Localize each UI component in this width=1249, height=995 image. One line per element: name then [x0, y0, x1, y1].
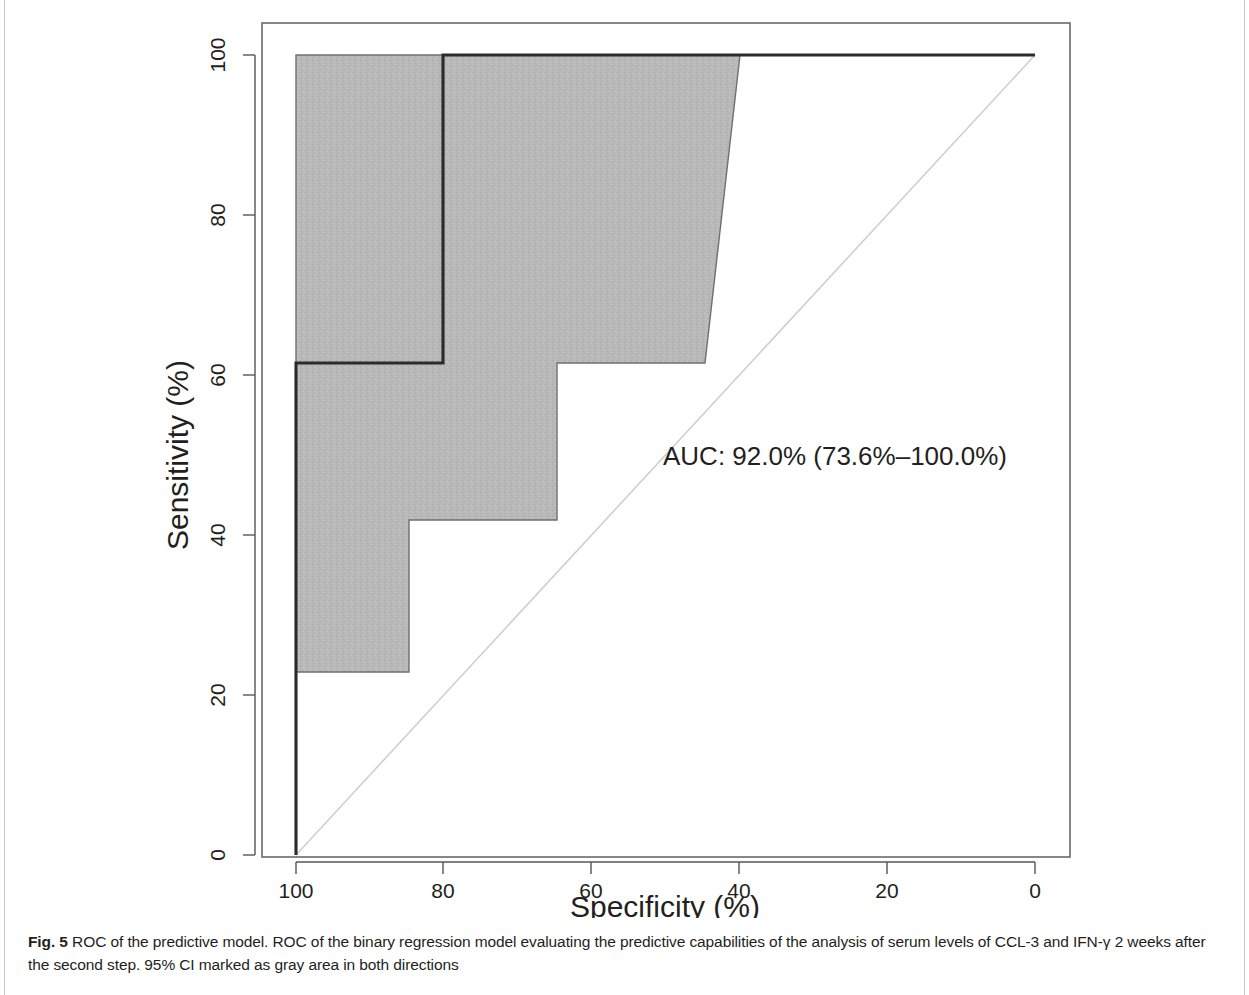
- figure-caption: Fig. 5 ROC of the predictive model. ROC …: [28, 930, 1218, 976]
- roc-chart: 100 80 60 40 20 0 0 20 40 60 80 100 Spec…: [0, 0, 1249, 918]
- y-tick-label-0: 0: [206, 849, 229, 861]
- roc-figure-panel: 100 80 60 40 20 0 0 20 40 60 80 100 Spec…: [0, 0, 1249, 918]
- x-axis-title: Specificity (%): [570, 890, 760, 918]
- x-tick-label-20: 20: [875, 879, 898, 902]
- y-tick-label-60: 60: [206, 363, 229, 386]
- y-tick-label-80: 80: [206, 203, 229, 226]
- x-tick-label-80: 80: [431, 879, 454, 902]
- y-axis-title: Sensitivity (%): [161, 360, 194, 550]
- auc-annotation: AUC: 92.0% (73.6%–100.0%): [663, 441, 1007, 471]
- figure-caption-body: ROC of the predictive model. ROC of the …: [28, 933, 1206, 973]
- y-tick-label-40: 40: [206, 523, 229, 546]
- y-tick-label-20: 20: [206, 683, 229, 706]
- x-tick-label-0: 0: [1029, 879, 1041, 902]
- figure-caption-label: Fig. 5: [28, 933, 68, 950]
- x-tick-label-100: 100: [278, 879, 313, 902]
- y-tick-label-100: 100: [206, 37, 229, 72]
- y-axis: 0 20 40 60 80 100: [206, 37, 255, 860]
